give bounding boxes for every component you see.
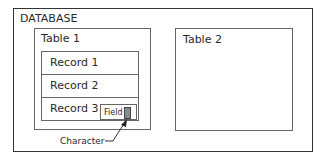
character-pointer-arrow: [0, 0, 320, 159]
